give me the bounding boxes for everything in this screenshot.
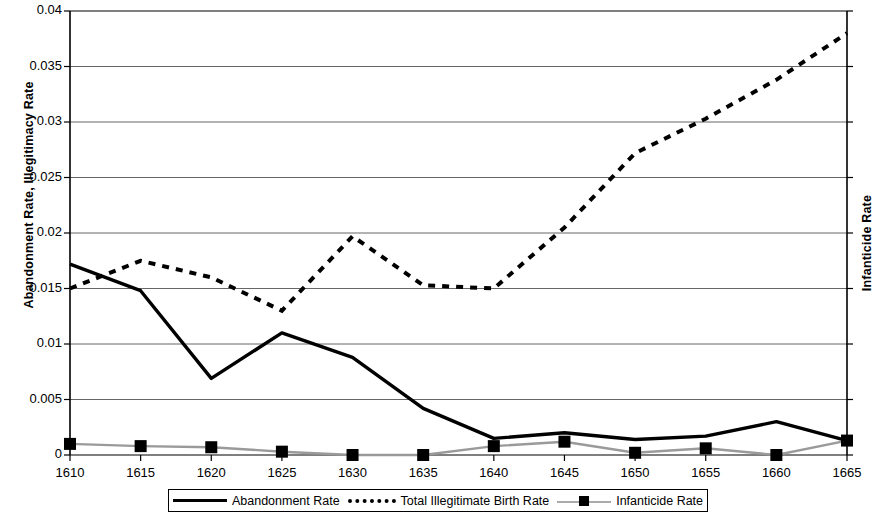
dotted-line-swatch	[348, 499, 396, 503]
square-marker-icon	[579, 496, 589, 506]
series-marker-infanticide-rate	[135, 440, 147, 452]
series-line-abandonment-rate	[70, 264, 847, 441]
series-line-total-illegitimate-birth-rate	[70, 33, 847, 311]
series-marker-infanticide-rate	[700, 442, 712, 454]
series-marker-infanticide-rate	[841, 435, 853, 447]
chart-legend: Abandonment RateTotal Illegitimate Birth…	[168, 489, 708, 512]
series-marker-infanticide-rate	[770, 449, 782, 461]
series-marker-infanticide-rate	[558, 436, 570, 448]
plot-area	[0, 0, 875, 517]
series-marker-infanticide-rate	[276, 446, 288, 458]
legend-item: Infanticide Rate	[557, 494, 703, 508]
chart-container: Abandonment Rate, Illegitimacy Rate Infa…	[0, 0, 875, 517]
square-marker-line-swatch	[557, 496, 611, 506]
legend-label: Abandonment Rate	[232, 494, 340, 508]
series-line-infanticide-rate	[70, 441, 847, 455]
series-marker-infanticide-rate	[417, 449, 429, 461]
legend-label: Total Illegitimate Birth Rate	[401, 494, 550, 508]
solid-line-swatch	[173, 499, 227, 502]
series-marker-infanticide-rate	[629, 447, 641, 459]
legend-item: Abandonment Rate	[173, 494, 340, 508]
series-marker-infanticide-rate	[205, 441, 217, 453]
series-marker-infanticide-rate	[488, 440, 500, 452]
series-marker-infanticide-rate	[64, 438, 76, 450]
legend-label: Infanticide Rate	[616, 494, 703, 508]
legend-item: Total Illegitimate Birth Rate	[348, 494, 550, 508]
series-marker-infanticide-rate	[347, 449, 359, 461]
